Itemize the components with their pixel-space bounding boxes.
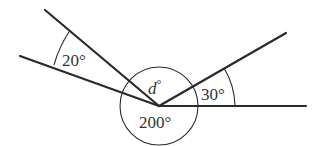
- angle-20-label: 20°: [62, 51, 86, 70]
- angle-d-label: d°: [148, 77, 162, 98]
- angle-30-arc: [224, 68, 235, 106]
- angle-30-label: 30°: [201, 85, 225, 104]
- lower-left-ray: [20, 56, 159, 106]
- angle-diagram: 20° d° 30° 200°: [0, 0, 322, 146]
- angle-d-degree: °: [157, 77, 162, 91]
- angle-200-label: 200°: [139, 113, 171, 132]
